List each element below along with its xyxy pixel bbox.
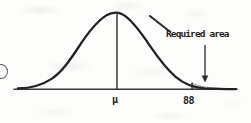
required-area-annotation-label: Required area xyxy=(166,28,229,39)
figure-canvas: Required area μ 88 xyxy=(0,0,251,123)
normal-distribution-diagram xyxy=(0,0,251,123)
required-area-arrow xyxy=(202,45,209,82)
x-axis-label-mean: μ xyxy=(112,94,118,105)
x-axis-label-threshold: 88 xyxy=(183,95,194,106)
